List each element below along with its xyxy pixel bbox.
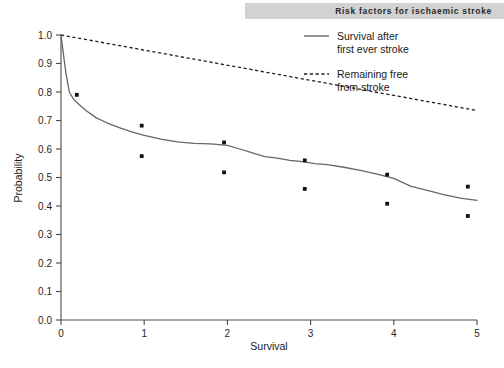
x-tick-label: 2 — [225, 328, 231, 339]
y-tick-label: 0.0 — [38, 315, 52, 326]
y-tick-label: 0.1 — [38, 286, 52, 297]
y-tick-label: 0.4 — [38, 201, 52, 212]
y-tick-label: 0.8 — [38, 87, 52, 98]
y-tick-label: 0.3 — [38, 229, 52, 240]
scatter-point — [75, 93, 79, 97]
legend-item-1-line1: Remaining free — [337, 68, 408, 80]
y-tick-label: 0.7 — [38, 115, 52, 126]
x-tick-label: 4 — [391, 328, 397, 339]
scatter-point — [303, 159, 307, 163]
scatter-point — [466, 214, 470, 218]
axes-group — [61, 35, 477, 320]
x-axis-tick-labels: 012345 — [58, 328, 480, 339]
y-axis-title: Probability — [12, 153, 24, 203]
remaining-free-from-stroke-line — [61, 35, 477, 111]
scatter-point — [222, 170, 226, 174]
y-tick-label: 0.5 — [38, 172, 52, 183]
y-tick-label: 0.2 — [38, 258, 52, 269]
x-axis-ticks — [61, 320, 477, 325]
chart-legend: Survival after first ever stroke Remaini… — [304, 30, 409, 93]
scatter-point — [385, 173, 389, 177]
y-tick-label: 1.0 — [38, 30, 52, 41]
x-tick-label: 3 — [308, 328, 314, 339]
scatter-point — [140, 124, 144, 128]
x-tick-label: 5 — [474, 328, 480, 339]
scatter-point — [140, 154, 144, 158]
survival-chart: 0.00.10.20.30.40.50.60.70.80.91.0 012345… — [0, 0, 504, 368]
scatter-point — [222, 141, 226, 145]
scatter-point — [303, 187, 307, 191]
y-tick-label: 0.6 — [38, 144, 52, 155]
y-axis-ticks — [56, 35, 61, 320]
x-tick-label: 0 — [58, 328, 64, 339]
legend-item-1-line2: from stroke — [337, 81, 390, 93]
scatter-point — [385, 202, 389, 206]
x-axis-title: Survival — [250, 340, 287, 352]
legend-item-0-line1: Survival after — [337, 30, 399, 42]
chart-page: Risk factors for ischaemic stroke 0.00.1… — [0, 0, 504, 368]
survival-after-stroke-line — [61, 35, 477, 200]
x-tick-label: 1 — [141, 328, 147, 339]
scatter-point — [466, 185, 470, 189]
y-tick-label: 0.9 — [38, 58, 52, 69]
scatter-points-group — [75, 93, 470, 218]
legend-item-0-line2: first ever stroke — [337, 43, 409, 55]
y-axis-tick-labels: 0.00.10.20.30.40.50.60.70.80.91.0 — [38, 30, 52, 326]
